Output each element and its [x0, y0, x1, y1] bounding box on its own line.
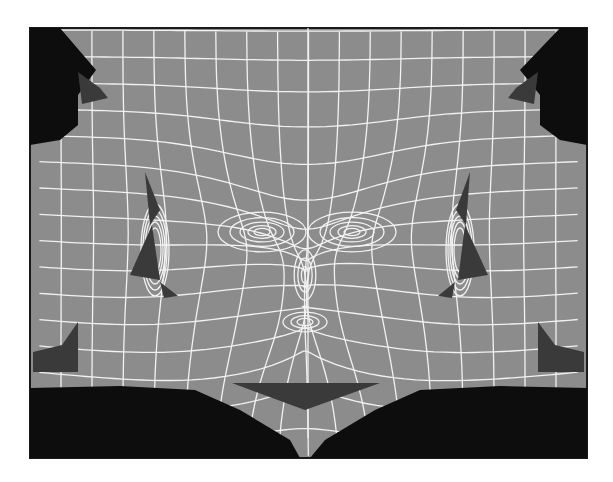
uv-wireframe-figure: [0, 0, 613, 482]
